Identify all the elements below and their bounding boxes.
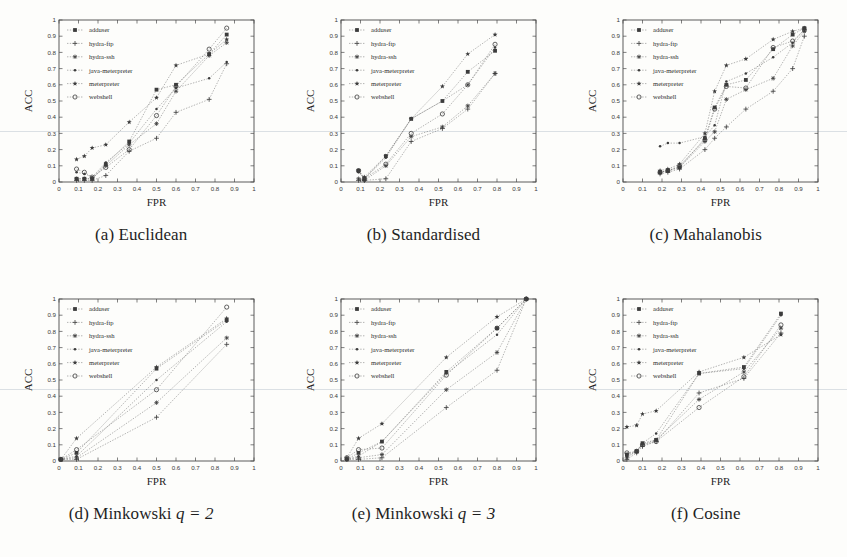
y-tick-label: 0.2 (612, 424, 621, 431)
legend-label: webshell (653, 372, 677, 379)
series-line-webshell (76, 28, 226, 177)
legend-marker-dot-icon (73, 69, 76, 72)
data-point-hydra-ssh (380, 452, 384, 456)
x-tick-label: 0.5 (152, 464, 161, 471)
data-point-hydra-ssh (82, 177, 86, 181)
series-line-webshell (660, 30, 804, 173)
legend-marker-dot-icon (638, 347, 641, 350)
series-line-webshell (627, 324, 781, 452)
y-tick-label: 0 (617, 457, 621, 464)
series-java-meterpreter (626, 313, 783, 456)
x-axis-label: FPR (146, 196, 166, 208)
legend-marker-star-icon (355, 81, 360, 86)
data-point-hydra-ftp (724, 125, 729, 130)
y-tick-label: 0.5 (47, 97, 56, 104)
y-tick-label: 0.9 (612, 311, 621, 318)
data-point-hydra-ssh (173, 89, 177, 93)
y-tick-label: 0.4 (329, 392, 338, 399)
legend-label: hydra-ssh (371, 53, 397, 60)
data-point-java-meterpreter (714, 124, 717, 127)
series-hydra-ssh (356, 71, 497, 182)
x-tick-label: 0.7 (191, 185, 200, 192)
x-tick-label: 0.6 (454, 185, 463, 192)
legend-label: java-meterpreter (370, 345, 415, 352)
legend-marker-plus-icon (355, 320, 360, 325)
data-point-hydra-ftp (771, 89, 776, 94)
x-tick-label: 0.9 (230, 464, 239, 471)
y-tick-label: 1 (335, 295, 339, 302)
y-tick-label: 0.7 (612, 343, 621, 350)
y-tick-label: 0.7 (47, 343, 56, 350)
data-point-hydra-ftp (697, 390, 702, 395)
y-tick-label: 0.1 (47, 441, 56, 448)
legend-marker-plus-icon (72, 41, 77, 46)
series-java-meterpreter (659, 28, 806, 147)
legend-marker-plus-icon (72, 320, 77, 325)
legend-marker-asterisk-icon (355, 55, 359, 59)
y-tick-label: 1 (335, 16, 339, 23)
legend-marker-asterisk-icon (637, 55, 641, 59)
y-axis-label: ACC (22, 90, 34, 113)
legend-marker-square-icon (637, 28, 641, 32)
series-webshell (74, 26, 228, 179)
y-tick-label: 0.3 (47, 130, 56, 137)
caption-a: (a) Euclidean (95, 225, 187, 245)
x-tick-label: 0.1 (356, 464, 365, 471)
y-tick-label: 0.2 (47, 146, 56, 153)
y-axis-label: ACC (586, 368, 598, 391)
data-point-hydra-ftp (173, 110, 178, 115)
data-point-meterpreter (493, 32, 498, 37)
data-point-meterpreter (640, 411, 645, 416)
data-point-java-meterpreter (772, 56, 775, 59)
y-tick-label: 0.5 (612, 376, 621, 383)
series-line-meterpreter (61, 318, 227, 459)
legend-label: hydra-ssh (89, 53, 115, 60)
x-tick-label: 0.2 (93, 185, 102, 192)
x-tick-label: 0.8 (493, 464, 502, 471)
data-point-java-meterpreter (743, 367, 746, 370)
y-tick-label: 0 (335, 178, 339, 185)
legend: adduserhydra-ftphydra-sshjava-meterprete… (349, 26, 415, 100)
y-tick-label: 0.4 (612, 113, 621, 120)
data-point-meterpreter (635, 422, 640, 427)
data-point-adduser (466, 70, 470, 74)
y-tick-label: 0.3 (47, 408, 56, 415)
plot-svg-a: 00.10.20.30.40.50.60.70.80.9100.10.20.30… (19, 6, 264, 221)
y-tick-label: 0.5 (329, 376, 338, 383)
legend-label: webshell (89, 372, 113, 379)
data-point-hydra-ssh (495, 350, 499, 354)
data-point-hydra-ssh (742, 369, 746, 373)
legend-label: adduser (89, 26, 110, 33)
y-tick-label: 0.8 (329, 327, 338, 334)
legend-label: meterpreter (653, 359, 684, 366)
legend-label: java-meterpreter (652, 67, 697, 74)
data-point-hydra-ssh (154, 121, 158, 125)
data-point-webshell (224, 305, 228, 309)
series-webshell (658, 28, 807, 175)
series-hydra-ssh (58, 335, 228, 461)
legend-label: hydra-ftp (371, 318, 396, 325)
x-tick-label: 0.2 (93, 464, 102, 471)
y-tick-label: 1 (52, 16, 56, 23)
x-tick-label: 0.9 (512, 464, 521, 471)
x-tick-label: 0.9 (795, 185, 804, 192)
x-tick-label: 0 (57, 185, 61, 192)
legend-marker-asterisk-icon (72, 333, 76, 337)
legend-label: hydra-ftp (371, 40, 396, 47)
legend: adduserhydra-ftphydra-sshjava-meterprete… (67, 26, 133, 100)
plot-a: 00.10.20.30.40.50.60.70.80.9100.10.20.30… (19, 6, 264, 221)
series-line-java-meterpreter (627, 315, 781, 456)
x-tick-label: 0.6 (454, 464, 463, 471)
x-tick-label: 0.3 (395, 185, 404, 192)
data-point-hydra-ssh (791, 44, 795, 48)
data-point-meterpreter (724, 63, 729, 68)
legend-marker-square-icon (637, 307, 641, 311)
data-point-java-meterpreter (441, 100, 444, 103)
series-hydra-ssh (625, 325, 783, 459)
data-point-adduser (493, 49, 497, 53)
legend: adduserhydra-ftphydra-sshjava-meterprete… (67, 305, 133, 379)
y-tick-label: 0.6 (612, 81, 621, 88)
caption-e-math: q = 3 (458, 504, 495, 523)
series-webshell (356, 42, 497, 181)
data-point-hydra-ftp (154, 136, 159, 141)
